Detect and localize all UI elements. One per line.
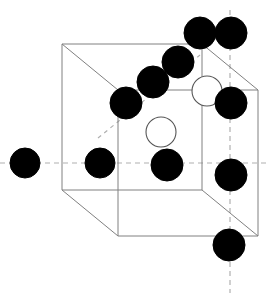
atom-diagonal-1 — [110, 87, 142, 119]
atom-right-lower — [215, 159, 247, 191]
atom-top-left-upper — [184, 17, 216, 49]
atom-body-center-lower — [151, 149, 183, 181]
atom-open-center — [146, 117, 176, 147]
atom-right-upper — [215, 87, 247, 119]
atom-diagonal-3 — [162, 46, 194, 78]
crystal-unit-cell-figure — [0, 0, 266, 293]
atom-exterior-left — [10, 148, 40, 178]
atom-top-right-upper — [215, 17, 247, 49]
atom-bottom-right — [213, 229, 245, 261]
atom-face-left — [85, 148, 115, 178]
crystal-structure-canvas — [0, 0, 266, 293]
